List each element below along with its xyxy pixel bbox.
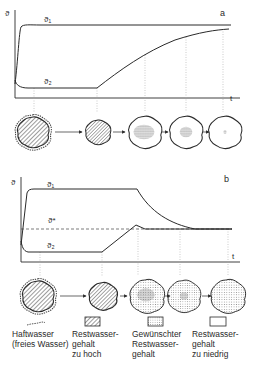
particle-b3	[130, 279, 165, 313]
legend-swatches	[27, 317, 226, 326]
particle-a5	[209, 116, 242, 149]
particle-a4	[170, 116, 203, 149]
panel-b-label: b	[224, 175, 229, 184]
particle-a1	[15, 115, 51, 151]
legend-line: gehalt	[132, 349, 181, 359]
legend-item-haftwasser: Haftwasser (freies Wasser)	[12, 329, 68, 349]
legend-line: Restwasser-	[192, 329, 239, 339]
legend-line: gehalt	[72, 339, 119, 349]
panel-a-x-axis-label: t	[230, 94, 232, 103]
legend-item-desired: Gewünschter Restwasser- gehalt	[132, 329, 181, 359]
panel-b-setpoint-label: ϑ*	[48, 216, 56, 225]
panel-b-theta1-label: ϑ₁	[47, 180, 54, 189]
legend-line: Haftwasser	[12, 329, 68, 339]
panel-a-theta1-label: ϑ₁	[44, 15, 51, 24]
panel-b-guides	[40, 226, 228, 276]
panel-a-y-axis-label: ϑ	[5, 9, 9, 18]
panel-b-theta2-label: ϑ₂	[47, 241, 54, 250]
legend-swatch-desired	[148, 317, 163, 326]
legend-line: Restwasser-	[132, 339, 181, 349]
legend-line: zu niedrig	[192, 349, 239, 359]
particle-a3	[129, 116, 162, 149]
particle-b5	[211, 279, 246, 313]
panel-a-guides	[34, 29, 223, 112]
legend-item-rest-too-high: Restwasser- gehalt zu hoch	[72, 329, 119, 359]
panel-a-label: a	[220, 9, 225, 18]
panel-a-particles	[15, 115, 242, 151]
panel-b-y-axis-label: ϑ	[11, 178, 15, 187]
panel-b-chart	[21, 177, 240, 276]
legend-line: (freies Wasser)	[12, 339, 68, 349]
legend-line: Gewünschter	[132, 329, 181, 339]
panel-a-theta2-label: ϑ₂	[44, 77, 51, 86]
particle-b1	[20, 279, 56, 315]
particle-a2	[86, 120, 111, 145]
legend-line: zu hoch	[72, 349, 119, 359]
diagram-canvas	[0, 0, 254, 368]
particle-b4	[168, 280, 201, 313]
legend-line: gehalt	[192, 339, 239, 349]
panel-b-x-axis-label: t	[232, 252, 234, 261]
panel-a-chart	[15, 10, 240, 112]
legend-line: Restwasser-	[72, 329, 119, 339]
particle-b2	[89, 282, 117, 310]
legend-swatch-rest-too-low	[210, 317, 226, 326]
legend-swatch-rest-too-high	[85, 317, 100, 326]
legend-item-rest-too-low: Restwasser- gehalt zu niedrig	[192, 329, 239, 359]
panel-b-particles	[20, 279, 245, 315]
legend-swatch-haftwasser	[27, 322, 45, 325]
